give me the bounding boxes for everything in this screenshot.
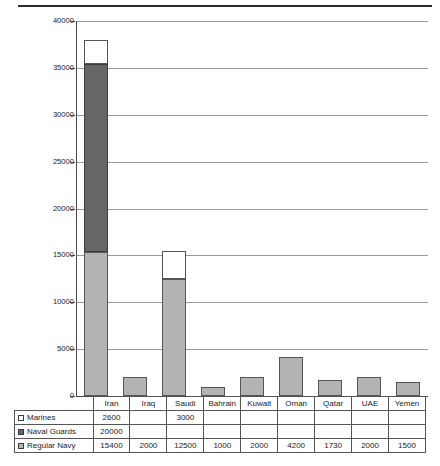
bar-segment-naval-guards[interactable] [84,64,108,252]
table-cell: 12500 [167,439,204,453]
bar-slot-iran [76,13,115,396]
y-axis-tick-mark [70,162,75,163]
table-cell: 2000 [130,439,167,453]
table-cell: 1500 [389,439,426,453]
y-axis-tick-mark [70,255,75,256]
bar-slot-yemen [389,13,428,396]
bar-slot-uae [350,13,389,396]
table-header-row: IranIraqSaudiBahrainKuwaitOmanQatarUAEYe… [15,397,426,411]
table-cell [352,411,389,425]
y-axis-tick-mark [70,21,75,22]
bar-stack[interactable] [396,382,420,396]
table-cell [389,425,426,439]
bar-segment-regular-navy[interactable] [162,279,186,396]
table-header: IranIraqSaudiBahrainKuwaitOmanQatarUAEYe… [15,397,426,411]
bar-stack[interactable] [240,377,264,396]
table-cell [315,425,352,439]
table-cell: 20000 [93,425,130,439]
bar-stack[interactable] [357,377,381,396]
table-corner-cell [15,397,94,411]
bar-segment-regular-navy[interactable] [123,377,147,396]
legend-swatch-icon [18,443,24,449]
bar-segment-regular-navy[interactable] [357,377,381,396]
page-top-rule [18,5,432,7]
table-cell: 1000 [204,439,241,453]
bar-segment-regular-navy[interactable] [279,357,303,396]
bar-segment-regular-navy[interactable] [240,377,264,396]
table-row: Regular Navy1540020001250010002000420017… [15,439,426,453]
bar-stack[interactable] [162,251,186,396]
bar-segment-regular-navy[interactable] [318,380,342,396]
table-column-header-iran: Iran [93,397,130,411]
legend-label: Marines [27,413,55,422]
legend-row-regular-navy[interactable]: Regular Navy [15,439,94,453]
table-cell: 15400 [93,439,130,453]
bar-segment-regular-navy[interactable] [396,382,420,396]
table-row: Naval Guards20000 [15,425,426,439]
y-axis-tick-mark [70,349,75,350]
y-axis-tick-label: 10000 [30,298,74,306]
legend-row-naval-guards[interactable]: Naval Guards [15,425,94,439]
y-axis-tick-mark [70,209,75,210]
table-cell [278,411,315,425]
bar-slot-iraq [115,13,154,396]
y-axis-tick-label: 15000 [30,251,74,259]
table-cell [241,425,278,439]
bar-stack[interactable] [123,377,147,396]
table-cell: 2600 [93,411,130,425]
y-axis-tick-label: 20000 [30,205,74,213]
legend-row-marines[interactable]: Marines [15,411,94,425]
table-cell [278,425,315,439]
y-axis-tick-mark [70,68,75,69]
bar-slot-bahrain [193,13,232,396]
table-cell [315,411,352,425]
table-column-header-saudi: Saudi [167,397,204,411]
y-axis-tick-label: 40000 [30,17,74,25]
y-axis-tick-label: 25000 [30,158,74,166]
y-axis-tick-label: 5000 [30,345,74,353]
bar-stack[interactable] [279,357,303,396]
table-cell: 4200 [278,439,315,453]
table-cell: 1730 [315,439,352,453]
table-body: Marines26003000Naval Guards20000Regular … [15,411,426,453]
y-axis-tick-label: 35000 [30,64,74,72]
table-column-header-uae: UAE [352,397,389,411]
table-column-header-bahrain: Bahrain [204,397,241,411]
bar-stack[interactable] [201,387,225,396]
table-column-header-iraq: Iraq [130,397,167,411]
bar-segment-regular-navy[interactable] [84,252,108,396]
bar-slot-saudi [154,13,193,396]
table-cell [352,425,389,439]
y-axis-tick-mark [70,115,75,116]
table-column-header-oman: Oman [278,397,315,411]
table-cell [389,411,426,425]
legend-swatch-icon [18,429,24,435]
table-column-header-yemen: Yemen [389,397,426,411]
table-row: Marines26003000 [15,411,426,425]
table-cell [167,425,204,439]
bar-segment-regular-navy[interactable] [201,387,225,396]
bar-stack[interactable] [318,380,342,396]
table-cell: 3000 [167,411,204,425]
table-cell [241,411,278,425]
legend-swatch-icon [18,415,24,421]
table-cell: 2000 [241,439,278,453]
bar-stack[interactable] [84,40,108,396]
footer-caption [14,456,426,466]
y-axis-tick-mark [70,302,75,303]
bar-slot-oman [272,13,311,396]
table-cell: 2000 [352,439,389,453]
table-column-header-qatar: Qatar [315,397,352,411]
chart-plot-area: 4000035000300002500020000150001000050000 [0,14,440,404]
table-cell [130,411,167,425]
legend-label: Regular Navy [27,441,75,450]
table-cell [130,425,167,439]
bar-slot-qatar [311,13,350,396]
table-cell [204,425,241,439]
chart-data-table: IranIraqSaudiBahrainKuwaitOmanQatarUAEYe… [14,396,426,453]
legend-label: Naval Guards [27,427,76,436]
bar-segment-marines[interactable] [162,251,186,279]
bar-segment-marines[interactable] [84,40,108,64]
y-axis-tick-label: 30000 [30,111,74,119]
chart-bars-layer [76,14,428,397]
